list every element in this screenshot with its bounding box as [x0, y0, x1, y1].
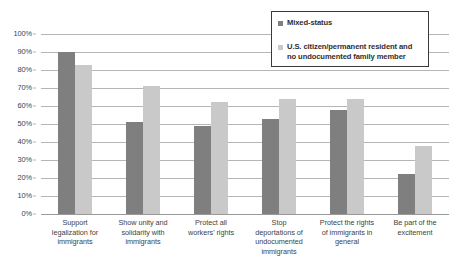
bar[interactable] — [262, 119, 279, 214]
x-axis: Supportlegalization forimmigrantsShow un… — [41, 216, 449, 274]
bar[interactable] — [415, 146, 432, 214]
chart-legend: Mixed-status U.S. citizen/permanent resi… — [271, 11, 429, 67]
legend-entry-us-citizen[interactable]: U.S. citizen/permanent resident andno un… — [278, 42, 412, 62]
bar[interactable] — [279, 99, 296, 214]
x-axis-category-line: Stop — [272, 218, 287, 227]
bar-chart: 100%90%80%70%60%50%40%30%20%10%0% Suppor… — [0, 0, 456, 276]
x-axis-category-line: deportations of — [255, 228, 303, 237]
x-axis-category-line: Protect all — [195, 218, 227, 227]
y-tick-mark-100 — [33, 34, 36, 35]
y-tick-label-0: 0% — [22, 210, 32, 217]
bar-group — [41, 34, 109, 214]
x-axis-category-line: Show unity and — [118, 218, 167, 227]
x-axis-category-line: of immigrants in — [322, 228, 373, 237]
bar[interactable] — [211, 102, 228, 214]
bar[interactable] — [194, 126, 211, 214]
x-axis-category-label: Protect the rightsof immigrants ingenera… — [309, 218, 385, 247]
bar-group — [177, 34, 245, 214]
x-axis-category-line: general — [335, 237, 359, 246]
y-axis: 100%90%80%70%60%50%40%30%20%10%0% — [0, 34, 36, 214]
x-axis-category-label: Be part of theexcitement — [377, 218, 453, 237]
y-tick-mark-60 — [33, 106, 36, 107]
bar[interactable] — [75, 65, 92, 214]
y-tick-mark-40 — [33, 142, 36, 143]
y-tick-label-70: 70% — [18, 84, 33, 91]
bar[interactable] — [347, 99, 364, 214]
y-tick-mark-90 — [33, 52, 36, 53]
x-axis-category-line: Be part of the — [393, 218, 436, 227]
y-tick-mark-10 — [33, 196, 36, 197]
bar[interactable] — [126, 122, 143, 214]
gridline-0 — [41, 214, 449, 215]
x-axis-category-line: solidarity with — [121, 228, 164, 237]
bar[interactable] — [58, 52, 75, 214]
x-axis-category-label: Supportlegalization forimmigrants — [37, 218, 113, 247]
y-tick-mark-30 — [33, 160, 36, 161]
x-axis-category-line: immigrants — [125, 237, 160, 246]
x-axis-category-line: excitement — [398, 228, 433, 237]
x-axis-category-line: workers' rights — [188, 228, 234, 237]
y-tick-mark-0 — [33, 214, 36, 215]
legend-swatch-us-citizen — [278, 45, 283, 50]
x-axis-category-line: undocumented — [255, 237, 303, 246]
legend-swatch-mixed-status — [278, 21, 283, 26]
y-tick-label-50: 50% — [18, 120, 33, 127]
x-axis-category-line: immigrants — [57, 237, 92, 246]
y-tick-label-80: 80% — [18, 66, 33, 73]
x-axis-category-line: immigrants — [261, 247, 296, 256]
y-tick-label-40: 40% — [18, 138, 33, 145]
y-tick-mark-80 — [33, 70, 36, 71]
x-axis-category-line: Support — [62, 218, 87, 227]
bar[interactable] — [143, 86, 160, 214]
x-axis-category-label: Show unity andsolidarity withimmigrants — [105, 218, 181, 247]
x-axis-category-label: Protect allworkers' rights — [173, 218, 249, 237]
y-tick-mark-70 — [33, 88, 36, 89]
y-tick-label-30: 30% — [18, 156, 33, 163]
y-tick-label-20: 20% — [18, 174, 33, 181]
bar[interactable] — [330, 110, 347, 214]
bar[interactable] — [398, 174, 415, 214]
y-tick-label-10: 10% — [18, 192, 33, 199]
x-axis-category-line: legalization for — [52, 228, 98, 237]
legend-entry-mixed-status[interactable]: Mixed-status — [278, 18, 332, 28]
y-tick-label-60: 60% — [18, 102, 33, 109]
bar-group — [109, 34, 177, 214]
y-tick-label-90: 90% — [18, 48, 33, 55]
y-tick-mark-20 — [33, 178, 36, 179]
legend-label-us-citizen-line2: no undocumented family member — [287, 52, 406, 61]
x-axis-category-line: Protect the rights — [320, 218, 374, 227]
x-axis-category-label: Stopdeportations ofundocumentedimmigrant… — [241, 218, 317, 256]
y-tick-label-100: 100% — [13, 30, 32, 37]
legend-label-mixed-status: Mixed-status — [287, 18, 332, 28]
legend-label-us-citizen: U.S. citizen/permanent resident andno un… — [287, 42, 412, 62]
legend-label-us-citizen-line1: U.S. citizen/permanent resident and — [287, 42, 412, 51]
y-tick-mark-50 — [33, 124, 36, 125]
